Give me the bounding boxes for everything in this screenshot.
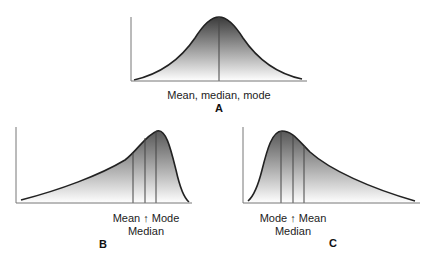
label-a-line1: Mean, median, mode	[167, 89, 270, 101]
label-c-line1: Mode ↑ Mean	[260, 212, 327, 224]
panel-a: Mean, median, mode A	[131, 17, 307, 114]
panel-c: Mode ↑ Mean Median C	[243, 127, 420, 249]
label-c-line2: Median	[275, 225, 311, 237]
panel-b: Mean ↑ Mode Median B	[16, 127, 192, 250]
label-b-line1: Mean ↑ Mode	[113, 212, 180, 224]
label-b-line2: Median	[128, 225, 164, 237]
panel-label-a: A	[215, 102, 223, 114]
panel-label-c: C	[329, 237, 337, 249]
distribution-diagram: Mean, median, mode A Mean ↑ Mode Median …	[0, 0, 438, 263]
panel-label-b: B	[99, 238, 107, 250]
